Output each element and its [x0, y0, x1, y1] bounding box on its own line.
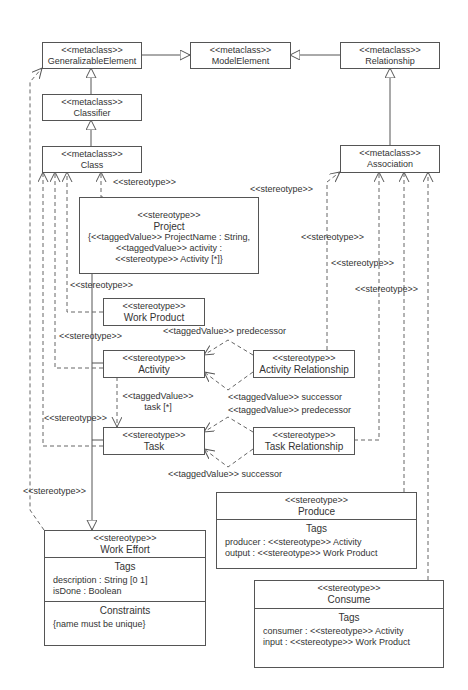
section-title: Tags — [263, 612, 435, 623]
section-title: Tags — [53, 561, 197, 572]
label-stereotype-project: <<stereotype>> — [113, 177, 176, 188]
metaclass-relationship[interactable]: <<metaclass>>Relationship — [340, 42, 440, 69]
class-name: Association — [341, 159, 439, 170]
stereotype-label: <<stereotype>> — [254, 430, 354, 441]
label-task-tagged-value: <<taggedValue>> task [*] — [118, 391, 198, 413]
tag-item: output : <<stereotype>> Work Product — [225, 548, 408, 559]
stereotype-work-product[interactable]: <<stereotype>>Work Product — [103, 298, 205, 326]
class-name: Activity — [104, 364, 204, 375]
stereotype-label: <<metaclass>> — [43, 45, 141, 56]
stereotype-task[interactable]: <<stereotype>>Task — [103, 427, 205, 455]
label-stereotype-produce: <<stereotype>> — [331, 258, 394, 269]
tag-item: consumer : <<stereotype>> Activity — [263, 626, 435, 637]
label-stereotype-activity: <<stereotype>> — [59, 331, 122, 342]
tagged-value: <<taggedValue>> activity : — [80, 243, 258, 254]
tags-section: Tags producer : <<stereotype>> Activity … — [217, 519, 416, 562]
stereotype-label: <<stereotype>> — [104, 353, 204, 364]
stereotype-label: <<metaclass>> — [191, 45, 290, 56]
stereotype-label: <<stereotype>> — [80, 210, 258, 221]
tag-item: producer : <<stereotype>> Activity — [225, 537, 408, 548]
stereotype-activity-relationship[interactable]: <<stereotype>>Activity Relationship — [253, 350, 355, 378]
tag-item: description : String [0 1] — [53, 575, 197, 586]
class-name: Relationship — [341, 56, 439, 67]
class-name: Class — [43, 160, 141, 171]
class-name: Consume — [255, 594, 443, 605]
uml-profile-diagram: <<metaclass>>GeneralizableElement <<meta… — [0, 0, 468, 690]
stereotype-project[interactable]: <<stereotype>> Project {<<taggedValue>> … — [79, 197, 259, 274]
label-stereotype-work-product: <<stereotype>> — [70, 280, 133, 291]
tagged-value-label: <<taggedValue>> — [118, 391, 198, 402]
metaclass-generalizable-element[interactable]: <<metaclass>>GeneralizableElement — [42, 42, 142, 69]
tagged-value-multiplicity: task [*] — [118, 402, 198, 413]
label-stereotype-work-effort: <<stereotype>> — [23, 486, 86, 497]
label-stereotype-task: <<stereotype>> — [44, 413, 107, 424]
label-activity-predecessor: <<taggedValue>> predecessor — [163, 326, 286, 337]
stereotype-task-relationship[interactable]: <<stereotype>>Task Relationship — [253, 427, 355, 455]
constraint-item: {name must be unique} — [53, 619, 197, 630]
stereotype-label: <<stereotype>> — [255, 583, 443, 594]
tagged-value: <<stereotype>> Activity [*]} — [80, 254, 258, 265]
label-activity-successor: <<taggedValue>> successor — [228, 392, 342, 403]
metaclass-association[interactable]: <<metaclass>>Association — [340, 145, 440, 173]
class-name: Work Product — [104, 312, 204, 323]
label-task-predecessor: <<taggedValue>> predecessor — [228, 405, 351, 416]
label-task-successor: <<taggedValue>> successor — [168, 469, 282, 480]
stereotype-label: <<metaclass>> — [43, 149, 141, 160]
stereotype-label: <<stereotype>> — [217, 495, 416, 506]
tagged-value: {<<taggedValue>> ProjectName : String, — [80, 232, 258, 243]
stereotype-label: <<metaclass>> — [341, 45, 439, 56]
label-stereotype-task-rel: <<stereotype>> — [301, 232, 364, 243]
stereotype-consume[interactable]: <<stereotype>>Consume Tags consumer : <<… — [254, 580, 444, 668]
class-name: GeneralizableElement — [43, 56, 141, 67]
class-name: Classifier — [43, 108, 141, 119]
stereotype-label: <<metaclass>> — [341, 148, 439, 159]
class-name: ModelElement — [191, 56, 290, 67]
tag-item: input : <<stereotype>> Work Product — [263, 637, 435, 648]
stereotype-label: <<stereotype>> — [104, 430, 204, 441]
class-name: Task — [104, 441, 204, 452]
class-name: Project — [80, 221, 258, 232]
section-title: Tags — [225, 523, 408, 534]
constraints-section: Constraints {name must be unique} — [45, 601, 205, 633]
stereotype-label: <<stereotype>> — [104, 301, 204, 312]
tags-section: Tags consumer : <<stereotype>> Activity … — [255, 608, 443, 651]
class-name: Work Effort — [45, 544, 205, 555]
label-stereotype-activity-rel: <<stereotype>> — [250, 184, 313, 195]
stereotype-label: <<metaclass>> — [43, 97, 141, 108]
stereotype-label: <<stereotype>> — [45, 533, 205, 544]
stereotype-activity[interactable]: <<stereotype>>Activity — [103, 350, 205, 378]
metaclass-classifier[interactable]: <<metaclass>>Classifier — [42, 94, 142, 121]
stereotype-label: <<stereotype>> — [254, 353, 354, 364]
metaclass-model-element[interactable]: <<metaclass>>ModelElement — [190, 42, 291, 69]
class-name: Activity Relationship — [254, 364, 354, 375]
stereotype-work-effort[interactable]: <<stereotype>>Work Effort Tags descripti… — [44, 530, 206, 646]
stereotype-produce[interactable]: <<stereotype>>Produce Tags producer : <<… — [216, 492, 417, 569]
tag-item: isDone : Boolean — [53, 586, 197, 597]
class-name: Produce — [217, 506, 416, 517]
tags-section: Tags description : String [0 1] isDone :… — [45, 557, 205, 601]
class-name: Task Relationship — [254, 441, 354, 452]
label-stereotype-consume: <<stereotype>> — [355, 284, 418, 295]
section-title: Constraints — [53, 605, 197, 616]
metaclass-class[interactable]: <<metaclass>>Class — [42, 146, 142, 173]
